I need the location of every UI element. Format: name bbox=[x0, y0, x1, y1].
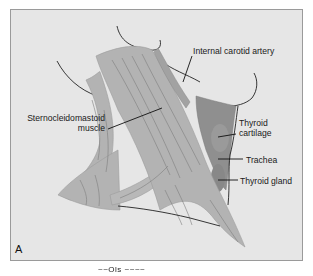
label-sternocleidomastoid-line1: Sternocleidomastoid bbox=[14, 113, 105, 123]
panel-letter: A bbox=[15, 243, 22, 255]
lower-left-muscle-fan bbox=[58, 150, 120, 210]
label-sternocleidomastoid-line2: muscle bbox=[14, 123, 105, 133]
neck-anatomy-illustration bbox=[0, 0, 313, 276]
leader-internal-carotid bbox=[183, 56, 192, 82]
label-thyroid-gland: Thyroid gland bbox=[240, 176, 292, 186]
thyroid-cartilage-shape bbox=[211, 124, 229, 152]
caption-fragment: ~~Ols ~~~~ bbox=[98, 265, 145, 274]
label-internal-carotid-artery: Internal carotid artery bbox=[193, 46, 274, 56]
label-thyroid-cartilage: Thyroid cartilage bbox=[239, 118, 271, 138]
label-thyroid-cartilage-line1: Thyroid bbox=[239, 118, 271, 128]
label-trachea: Trachea bbox=[246, 155, 277, 165]
label-thyroid-cartilage-line2: cartilage bbox=[239, 128, 271, 138]
label-sternocleidomastoid-muscle: Sternocleidomastoid muscle bbox=[14, 113, 105, 133]
